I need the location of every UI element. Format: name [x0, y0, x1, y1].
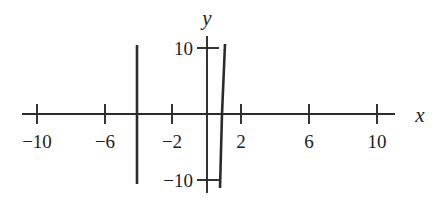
x-tick-label--6: −6	[95, 131, 115, 152]
x-tick-label--10: −10	[22, 131, 52, 152]
y-axis-label: y	[200, 6, 212, 30]
x-tick-label--2: −2	[162, 131, 182, 152]
curve-branch-right	[220, 44, 225, 188]
y-tick-label-10: 10	[174, 38, 193, 59]
x-axis-label: x	[414, 103, 425, 127]
x-tick-label-10: 10	[368, 131, 387, 152]
x-tick-label-6: 6	[304, 131, 314, 152]
x-tick-label-2: 2	[236, 131, 246, 152]
y-tick-label--10: −10	[163, 170, 193, 191]
graph-figure: −10 −6 −2 2 6 10 10 −10 x y	[0, 0, 447, 204]
coordinate-plane-svg: −10 −6 −2 2 6 10 10 −10 x y	[0, 0, 447, 204]
